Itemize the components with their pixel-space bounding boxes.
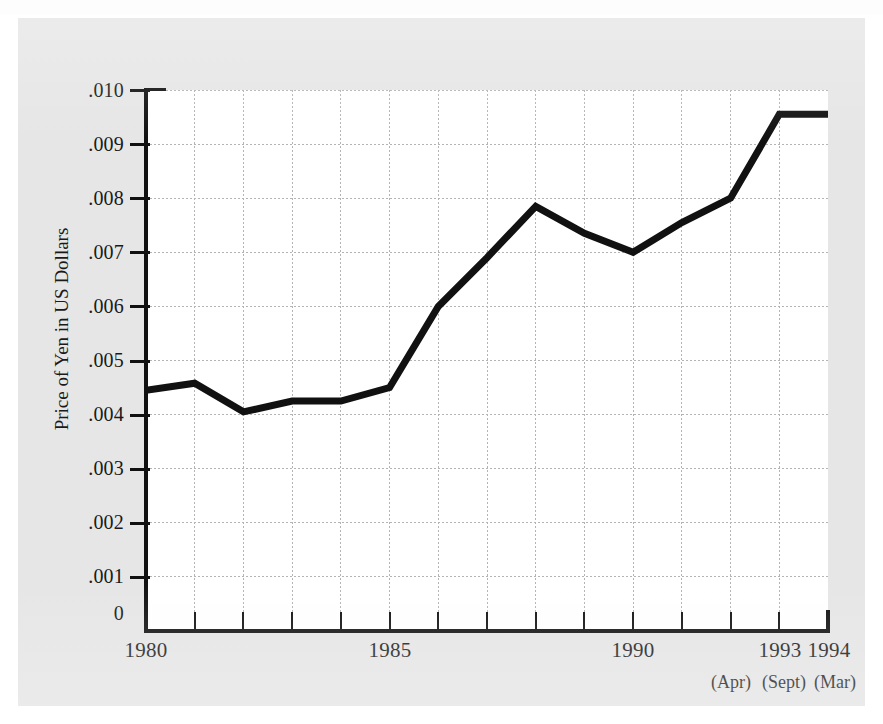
x-tick-mark (730, 612, 732, 631)
y-tick-label-010: .010 (60, 79, 124, 102)
x-tick-mark (291, 612, 293, 631)
x-tick-label-1980: 1980 (101, 638, 191, 663)
x-sub-label-mar: (Mar) (790, 672, 880, 693)
x-tick-mark (486, 612, 488, 631)
plot-area (146, 90, 828, 631)
y-tick-mark (130, 468, 150, 471)
x-tick-mark (535, 612, 537, 631)
y-tick-label-002: .002 (60, 511, 124, 534)
x-tick-mark (632, 612, 634, 631)
y-tick-mark (130, 305, 150, 308)
x-tick-mark (681, 612, 683, 631)
figure-panel: .010 .009 .008 .007 .006 .005 .004 .003 … (18, 18, 865, 706)
x-tick-mark (389, 612, 391, 631)
y-axis-title: Price of Yen in US Dollars (51, 199, 73, 459)
y-tick-mark (130, 251, 150, 254)
x-tick-label-1990: 1990 (588, 638, 678, 663)
x-tick-mark (437, 612, 439, 631)
x-tick-mark (827, 612, 829, 631)
x-tick-mark (340, 612, 342, 631)
x-tick-mark (583, 612, 585, 631)
chart-page: .010 .009 .008 .007 .006 .005 .004 .003 … (0, 0, 883, 724)
y-tick-mark (130, 197, 150, 200)
y-tick-mark (130, 522, 150, 525)
y-tick-mark (130, 414, 150, 417)
y-tick-mark (130, 576, 150, 579)
x-tick-mark (242, 612, 244, 631)
y-tick-label-009: .009 (60, 133, 124, 156)
scan-artifact (0, 0, 883, 14)
y-tick-label-001: .001 (60, 565, 124, 588)
x-tick-label-1994: 1994 (784, 638, 874, 663)
y-tick-mark (130, 143, 150, 146)
y-tick-mark (130, 360, 150, 363)
series-line-yen-price (146, 90, 828, 631)
y-tick-mark (130, 89, 150, 92)
x-tick-mark (194, 612, 196, 631)
x-tick-label-1985: 1985 (345, 638, 435, 663)
x-tick-mark (778, 612, 780, 631)
y-tick-label-003: .003 (60, 457, 124, 480)
y-tick-label-0: 0 (60, 602, 124, 625)
